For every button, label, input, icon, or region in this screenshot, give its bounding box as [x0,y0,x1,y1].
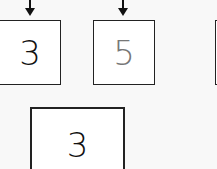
top-box-1: 3 [0,20,61,85]
bottom-box-1: 3 [30,107,125,169]
top-box-2: 5 [93,20,155,85]
top-box-3 [215,20,217,85]
